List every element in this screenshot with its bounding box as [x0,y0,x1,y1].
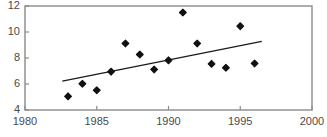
x-axis-tick-labels: 19801985199019952000 [13,115,324,127]
data-point-marker [136,51,143,58]
plot-area: 19801985199019952000 4681012 [0,0,327,137]
data-point-marker [208,60,215,67]
y-tick-label: 6 [14,77,20,89]
x-tick-label: 1980 [13,115,37,127]
data-point-marker [122,40,129,47]
data-point-marker [93,87,100,94]
y-tick-label: 4 [14,103,20,115]
y-tick-label: 10 [8,25,20,37]
data-point-marker [223,64,230,71]
x-tick-label: 1995 [228,115,252,127]
trend-line [62,41,261,81]
data-points [65,9,258,100]
data-point-marker [108,68,115,75]
y-axis-tick-labels: 4681012 [8,0,20,115]
data-point-marker [237,23,244,30]
x-tick-label: 2000 [300,115,324,127]
scatter-chart: 19801985199019952000 4681012 [0,0,327,137]
data-point-marker [79,80,86,87]
x-tick-label: 1985 [85,115,109,127]
x-tick-label: 1990 [156,115,180,127]
y-tick-label: 12 [8,0,20,11]
y-tick-label: 8 [14,51,20,63]
trend-line-segment [62,41,261,81]
data-point-marker [165,57,172,64]
data-point-marker [151,66,158,73]
data-point-marker [251,60,258,67]
data-point-marker [179,9,186,16]
data-point-marker [65,93,72,100]
data-point-marker [194,40,201,47]
